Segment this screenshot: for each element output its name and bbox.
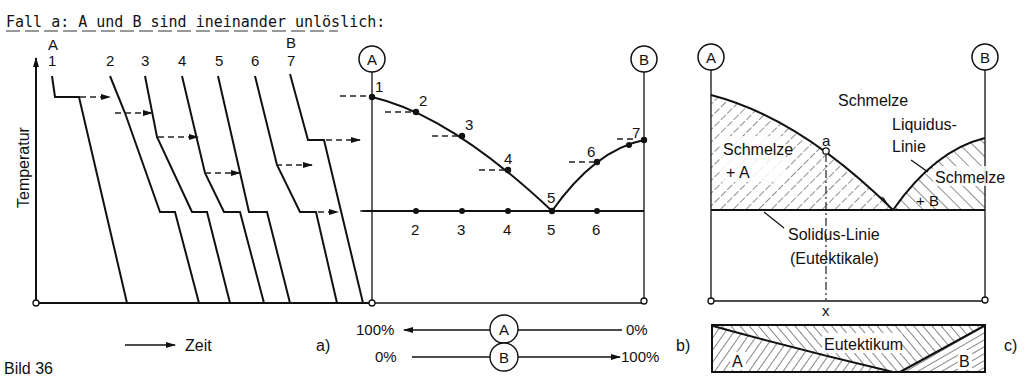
region-label-left-1: Schmelze	[723, 141, 793, 158]
point-label-7: 7	[632, 124, 640, 141]
point-label-2: 2	[419, 92, 427, 109]
title-text: Fall a: A und B sind ineinander unlöslic…	[6, 13, 385, 31]
cooling-curve-6	[255, 76, 337, 303]
point-label-3: 3	[465, 116, 473, 133]
corner-marker-left	[369, 300, 375, 306]
composition-x-label: x	[822, 302, 830, 319]
point-label-6: 6	[587, 143, 595, 160]
strip-label-eutectic: Eutektikum	[824, 336, 903, 353]
liquidus-right	[552, 140, 644, 211]
scale-circle-a-label: A	[499, 321, 509, 338]
circle-b-label: B	[639, 51, 649, 68]
corner-marker-right	[982, 297, 988, 303]
strip-label-b: B	[959, 353, 970, 370]
liquidus-left	[372, 97, 552, 211]
composition-scale: 100% A 0% 0% B 100%	[356, 315, 659, 371]
liquidus-label-1: Liquidus-	[892, 116, 957, 133]
eutectic-label-5: 5	[547, 221, 555, 238]
solidus-label-2: (Eutektikale)	[790, 250, 879, 267]
title: Fall a: A und B sind ineinander unlöslic…	[6, 13, 385, 31]
solidus-label-1: Solidus-Linie	[788, 226, 880, 243]
eutectic-label-6: 6	[592, 221, 600, 238]
region-label-right-2: + B	[916, 192, 939, 209]
scale-b-right: 100%	[621, 348, 659, 365]
circle-a-label: A	[367, 51, 377, 68]
panel-a-cooling-curves: Temperatur A B 1 2 3 4 5 6 7 Zeit a)	[15, 34, 370, 354]
strip-label-a: A	[732, 353, 743, 370]
figure-caption: Bild 36	[4, 360, 53, 377]
cooling-curve-1	[52, 76, 127, 303]
curve-label-2: 2	[106, 52, 114, 69]
microstructure-strip: Eutektikum A B	[712, 325, 985, 372]
eutectic-label-3: 3	[457, 221, 465, 238]
scale-a-left: 100%	[356, 321, 394, 338]
scale-circle-b-label: B	[499, 349, 509, 366]
y-axis-label: Temperatur	[15, 126, 32, 208]
panel-c-phase-regions: A B a x Schmelze Schmelze + A Liquidus- …	[698, 44, 1017, 372]
curve-label-3: 3	[141, 52, 149, 69]
panel-c-label: c)	[1004, 337, 1017, 354]
curve-label-5: 5	[215, 52, 223, 69]
scale-b-left: 0%	[375, 348, 397, 365]
eutectic-label-4: 4	[503, 221, 511, 238]
cooling-curve-7	[290, 74, 363, 303]
panel-a-label: a)	[316, 337, 330, 354]
point-a-label: a	[822, 132, 831, 149]
corner-marker-right	[641, 298, 647, 304]
cooling-curve-2	[110, 76, 199, 303]
scale-a-right: 0%	[626, 321, 648, 338]
circle-b-label: B	[980, 49, 990, 66]
point-label-1: 1	[375, 78, 383, 95]
liquidus-label-2: Linie	[892, 138, 926, 155]
region-label-left-2: + A	[726, 164, 750, 181]
curve-label-4: 4	[178, 52, 186, 69]
solidus-leader-line	[764, 212, 784, 228]
region-label-right-1: Schmelze	[935, 169, 1005, 186]
point-label-4: 4	[504, 150, 512, 167]
region-label-melt: Schmelze	[838, 92, 908, 109]
panel-b-label: b)	[676, 337, 690, 354]
curve-top-label-b: B	[286, 34, 296, 51]
cooling-curve-4	[182, 76, 264, 303]
curve-top-label-a: A	[48, 36, 58, 53]
curve-label-6: 6	[251, 52, 259, 69]
cooling-curve-3	[145, 76, 230, 303]
panel-b-phase-diagram: A B 1 2 3	[340, 46, 690, 371]
corner-marker-left	[708, 298, 714, 304]
curve-label-1: 1	[48, 52, 56, 69]
point-label-5: 5	[547, 189, 555, 206]
circle-a-label: A	[706, 49, 716, 66]
origin-marker	[33, 300, 39, 306]
curve-label-7: 7	[287, 52, 295, 69]
liquidus-leader-line	[911, 160, 928, 172]
eutectic-label-2: 2	[411, 221, 419, 238]
x-axis-label: Zeit	[185, 337, 212, 354]
